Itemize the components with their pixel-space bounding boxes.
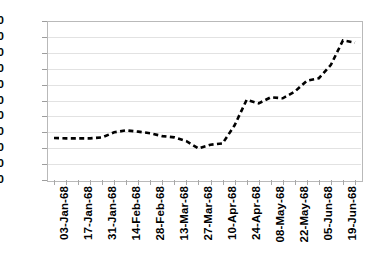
x-tick-label: 28-Feb-68 <box>155 186 167 241</box>
x-tick-mark <box>283 180 284 185</box>
y-gridline <box>48 116 361 117</box>
y-gridline <box>48 101 361 102</box>
y-gridline <box>48 37 361 38</box>
x-tick-mark <box>259 180 260 185</box>
y-tick-mark <box>42 116 47 117</box>
y-tick-mark <box>42 53 47 54</box>
y-tick-label: 450 <box>0 95 4 107</box>
x-tick-mark <box>186 180 187 185</box>
x-tick-label: 27-Mar-68 <box>203 186 215 241</box>
y-tick-label: 400 <box>0 110 4 122</box>
y-tick-label: 550 <box>0 63 4 75</box>
x-tick-label: 10-Apr-68 <box>227 186 239 240</box>
y-tick-label: 700 <box>0 15 4 27</box>
y-tick-mark <box>42 85 47 86</box>
y-tick-label: 250 <box>0 158 4 170</box>
x-tick-mark <box>235 180 236 185</box>
x-tick-mark <box>90 180 91 185</box>
y-tick-label: 350 <box>0 126 4 138</box>
x-tick-mark <box>331 180 332 185</box>
y-gridline <box>48 148 361 149</box>
y-tick-mark <box>42 37 47 38</box>
x-tick-label: 03-Jan-68 <box>59 186 71 240</box>
x-tick-mark <box>66 180 67 185</box>
y-tick-label: 500 <box>0 79 4 91</box>
y-gridline <box>48 164 361 165</box>
y-gridline <box>48 69 361 70</box>
x-tick-mark <box>138 180 139 185</box>
x-tick-label: 19-Jun-68 <box>347 186 359 241</box>
y-tick-label: 200 <box>0 174 4 186</box>
x-tick-label: 22-May-68 <box>299 186 311 243</box>
x-tick-mark <box>355 180 356 185</box>
x-tick-mark <box>78 180 79 185</box>
x-tick-label: 13-Mar-68 <box>179 186 191 241</box>
y-tick-label: 650 <box>0 31 4 43</box>
x-tick-label: 24-Apr-68 <box>251 186 263 240</box>
x-tick-mark <box>198 180 199 185</box>
x-tick-mark <box>174 180 175 185</box>
plot-area <box>47 21 363 182</box>
y-tick-label: 300 <box>0 142 4 154</box>
x-tick-mark <box>162 180 163 185</box>
y-tick-mark <box>42 21 47 22</box>
x-tick-label: 05-Jun-68 <box>323 186 335 241</box>
y-tick-label: 600 <box>0 47 4 59</box>
x-tick-label: 17-Jan-68 <box>83 186 95 240</box>
x-tick-mark <box>247 180 248 185</box>
y-tick-mark <box>42 180 47 181</box>
x-tick-mark <box>54 180 55 185</box>
y-tick-mark <box>42 132 47 133</box>
x-tick-mark <box>211 180 212 185</box>
x-tick-mark <box>102 180 103 185</box>
x-tick-mark <box>343 180 344 185</box>
y-tick-mark <box>42 69 47 70</box>
x-tick-mark <box>126 180 127 185</box>
x-tick-label: 31-Jan-68 <box>107 186 119 240</box>
y-gridline <box>48 85 361 86</box>
x-tick-mark <box>319 180 320 185</box>
line-chart: 200250300350400450500550600650700 03-Jan… <box>0 0 376 265</box>
x-tick-mark <box>150 180 151 185</box>
x-tick-mark <box>223 180 224 185</box>
x-tick-label: 08-May-68 <box>275 186 287 243</box>
x-tick-mark <box>114 180 115 185</box>
x-tick-label: 14-Feb-68 <box>131 186 143 241</box>
y-gridline <box>48 53 361 54</box>
y-tick-mark <box>42 164 47 165</box>
x-tick-mark <box>307 180 308 185</box>
y-tick-mark <box>42 148 47 149</box>
y-tick-mark <box>42 101 47 102</box>
x-tick-mark <box>295 180 296 185</box>
y-gridline <box>48 132 361 133</box>
x-tick-mark <box>271 180 272 185</box>
